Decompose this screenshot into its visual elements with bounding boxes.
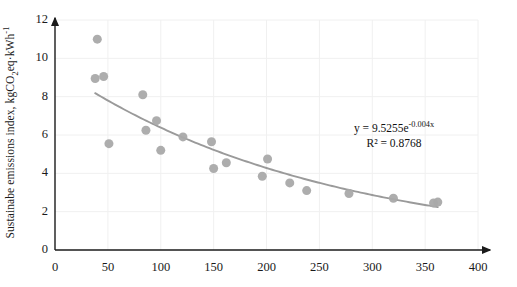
x-tick-label: 0 [35, 260, 75, 275]
r-squared-line: R² = 0.8768 [330, 136, 458, 152]
trendline-equation-annotation: y = 9.5255e-0.004x R² = 0.8768 [330, 119, 458, 152]
y-tick-label: 0 [22, 242, 48, 257]
data-point [222, 158, 231, 167]
data-point [285, 178, 294, 187]
x-tick-label: 50 [88, 260, 128, 275]
chart-figure: Sustainabe emissions index, kgCO2eq·kWh-… [0, 0, 517, 287]
y-axis-label-superscript: -1 [2, 27, 11, 34]
y-axis-label-subscript: 2 [11, 71, 20, 75]
data-point [209, 164, 218, 173]
equation-base: y = 9.5255e [354, 122, 409, 134]
data-point [93, 35, 102, 44]
data-point [156, 146, 165, 155]
data-point [152, 116, 161, 125]
data-point [138, 90, 147, 99]
x-tick-label: 250 [299, 260, 339, 275]
data-point [141, 126, 150, 135]
data-point [302, 186, 311, 195]
x-tick-label: 100 [141, 260, 181, 275]
y-tick-label: 6 [22, 127, 48, 142]
data-point [263, 154, 272, 163]
data-point [104, 139, 113, 148]
y-tick-label: 10 [22, 50, 48, 65]
y-axis-label-mid: eq·kWh [4, 34, 16, 72]
y-tick-label: 12 [22, 12, 48, 27]
x-tick-label: 300 [352, 260, 392, 275]
y-axis-label-prefix: Sustainabe emissions index, kgCO [4, 76, 16, 239]
x-tick-label: 350 [405, 260, 445, 275]
y-tick-label: 8 [22, 89, 48, 104]
y-axis-label: Sustainabe emissions index, kgCO2eq·kWh-… [0, 0, 22, 265]
y-tick-label: 2 [22, 204, 48, 219]
x-tick-label: 200 [247, 260, 287, 275]
data-point [433, 198, 442, 207]
y-tick-label: 4 [22, 165, 48, 180]
data-point [178, 132, 187, 141]
data-point [207, 137, 216, 146]
data-point [99, 72, 108, 81]
equation-line: y = 9.5255e-0.004x [330, 119, 458, 136]
data-point [344, 189, 353, 198]
x-tick-label: 400 [458, 260, 498, 275]
equation-exponent: -0.004x [409, 120, 434, 129]
x-tick-label: 150 [194, 260, 234, 275]
y-axis-label-text: Sustainabe emissions index, kgCO2eq·kWh-… [2, 27, 19, 239]
data-point [389, 194, 398, 203]
data-point [258, 172, 267, 181]
data-point [91, 74, 100, 83]
